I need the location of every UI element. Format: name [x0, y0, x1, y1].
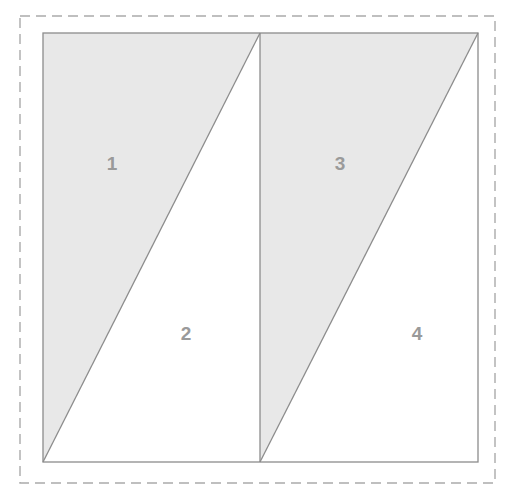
region-label-3: 3: [335, 153, 346, 175]
region-label-1: 1: [107, 153, 118, 175]
region-label-2: 2: [181, 323, 192, 345]
region-label-4: 4: [412, 323, 423, 345]
figure-canvas: 1 2 3 4: [0, 0, 514, 502]
geometry-figure: [0, 0, 514, 502]
